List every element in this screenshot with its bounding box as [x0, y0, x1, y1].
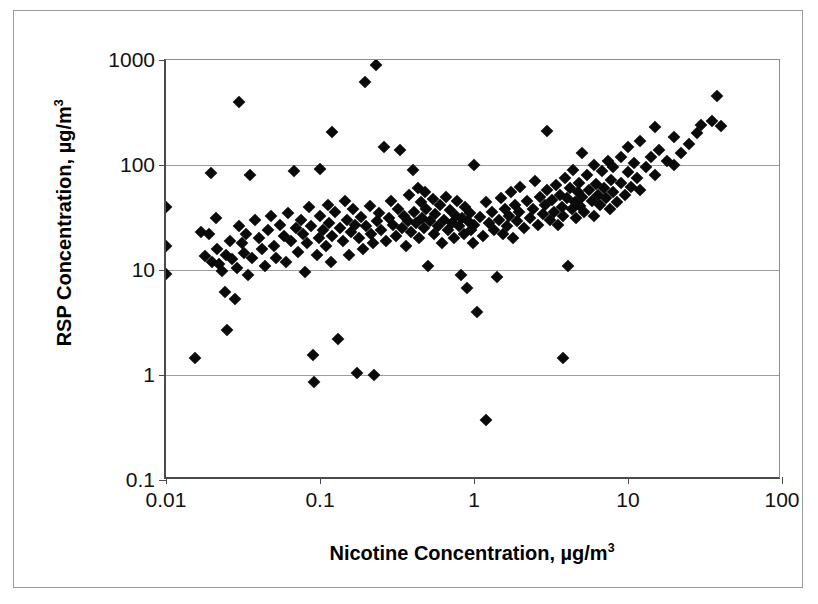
scatter-point	[262, 224, 275, 237]
x-axis-title-superscript: 3	[608, 541, 615, 555]
scatter-point	[303, 200, 316, 213]
y-tick-label: 100	[120, 153, 155, 177]
scatter-point	[421, 259, 434, 272]
scatter-point	[224, 234, 237, 247]
scatter-point	[189, 352, 202, 365]
scatter-point	[209, 212, 222, 225]
y-tick-mark	[159, 480, 166, 481]
y-tick-label: 1	[143, 363, 155, 387]
scatter-point	[477, 230, 490, 243]
scatter-point	[166, 239, 172, 252]
scatter-point	[436, 237, 449, 250]
scatter-point	[668, 131, 681, 144]
scatter-point	[711, 90, 724, 103]
scatter-point	[622, 140, 635, 153]
scatter-point	[399, 239, 412, 252]
scatter-point	[166, 267, 172, 280]
scatter-point	[466, 237, 479, 250]
scatter-point	[454, 268, 467, 281]
scatter-point	[308, 376, 321, 389]
y-axis-title-superscript: 3	[52, 99, 66, 106]
x-axis-title-text: Nicotine Concentration, µg/m	[329, 542, 607, 564]
scatter-point	[557, 352, 570, 365]
scatter-point	[471, 305, 484, 318]
scatter-point	[393, 143, 406, 156]
scatter-point	[299, 266, 312, 279]
figure-container: 0.11101001000 0.010.1110100 Nicotine Con…	[0, 0, 818, 604]
scatter-point	[634, 134, 647, 147]
scatter-point	[649, 121, 662, 134]
scatter-point	[256, 242, 269, 255]
x-tick-label: 10	[616, 488, 639, 512]
scatter-point	[267, 239, 280, 252]
y-tick-mark	[159, 270, 166, 271]
plot-area: 0.11101001000 0.010.1110100	[164, 59, 780, 479]
figure-border: 0.11101001000 0.010.1110100 Nicotine Con…	[13, 10, 803, 588]
y-tick-mark	[159, 165, 166, 166]
x-tick-mark	[320, 477, 321, 484]
scatter-point	[541, 125, 554, 138]
scatter-point	[288, 164, 301, 177]
scatter-point	[562, 259, 575, 272]
scatter-point	[282, 206, 295, 219]
scatter-point	[326, 126, 339, 139]
scatter-point	[369, 60, 382, 71]
scatter-point	[314, 162, 327, 175]
scatter-point	[507, 232, 520, 245]
y-tick-mark	[159, 375, 166, 376]
scatter-point	[233, 95, 246, 108]
x-tick-label: 0.1	[305, 488, 334, 512]
scatter-point	[243, 168, 256, 181]
scatter-point	[529, 175, 542, 188]
scatter-point	[241, 268, 254, 281]
y-tick-mark	[159, 60, 166, 61]
scatter-point	[325, 255, 338, 268]
x-tick-mark	[474, 477, 475, 484]
scatter-point	[461, 281, 474, 294]
scatter-point	[310, 248, 323, 261]
scatter-point	[221, 323, 234, 336]
y-tick-label: 1000	[108, 48, 155, 72]
x-tick-mark	[166, 477, 167, 484]
scatter-points-layer	[166, 60, 779, 477]
y-axis-title-text: RSP Concentration, µg/m	[53, 106, 75, 346]
x-tick-label: 0.01	[146, 488, 187, 512]
scatter-point	[259, 259, 272, 272]
scatter-point	[615, 150, 628, 163]
scatter-point	[468, 159, 481, 172]
x-tick-label: 100	[764, 488, 799, 512]
x-tick-mark	[628, 477, 629, 484]
scatter-point	[406, 163, 419, 176]
y-axis-title: RSP Concentration, µg/m3	[52, 43, 76, 403]
scatter-point	[368, 369, 381, 382]
scatter-point	[218, 285, 231, 298]
scatter-point	[166, 200, 172, 213]
y-tick-label: 10	[132, 258, 155, 282]
scatter-point	[228, 293, 241, 306]
scatter-point	[575, 147, 588, 160]
scatter-point	[249, 214, 262, 227]
scatter-point	[307, 349, 320, 362]
scatter-point	[331, 333, 344, 346]
scatter-point	[358, 75, 371, 88]
scatter-point	[343, 248, 356, 261]
scatter-point	[265, 209, 278, 222]
scatter-point	[204, 167, 217, 180]
scatter-point	[674, 147, 687, 160]
scatter-point	[490, 271, 503, 284]
scatter-point	[649, 169, 662, 182]
scatter-point	[292, 245, 305, 258]
x-tick-label: 1	[468, 488, 480, 512]
scatter-point	[378, 140, 391, 153]
scatter-point	[683, 137, 696, 150]
scatter-point	[480, 414, 493, 427]
scatter-point	[351, 366, 364, 379]
x-tick-mark	[782, 477, 783, 484]
x-axis-title: Nicotine Concentration, µg/m3	[164, 541, 780, 565]
